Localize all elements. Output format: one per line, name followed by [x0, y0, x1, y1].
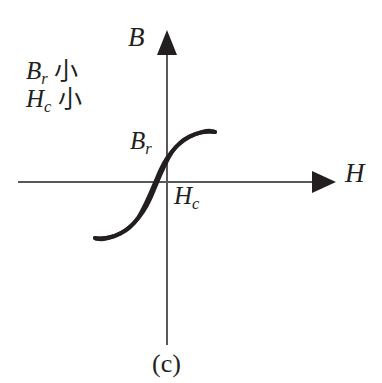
figure-caption: (c) — [152, 351, 181, 377]
arrow-up-icon — [157, 30, 177, 55]
axis-label-b-text: B — [128, 22, 145, 52]
curve-label-remanence-subscript: r — [145, 139, 151, 158]
annotation-remanence-small: Br 小 — [26, 58, 78, 83]
axis-label-h: H — [345, 160, 365, 187]
curve-label-coercivity: Hc — [174, 183, 199, 208]
axis-label-h-text: H — [345, 158, 365, 188]
annotation-remanence-symbol: B — [26, 57, 41, 84]
annotation-coercivity-qualifier: 小 — [58, 85, 82, 113]
annotation-coercivity-subscript: c — [44, 97, 51, 116]
annotation-coercivity-small: Hc 小 — [26, 86, 82, 111]
hysteresis-loop-figure: B H Br 小 Hc 小 Br Hc (c) — [0, 0, 382, 383]
curve-label-remanence-symbol: B — [130, 127, 145, 154]
curve-label-remanence: Br — [130, 128, 152, 153]
arrow-right-icon — [312, 171, 336, 193]
curve-label-coercivity-subscript: c — [192, 194, 199, 213]
axis-label-b: B — [128, 24, 145, 51]
annotation-remanence-qualifier: 小 — [54, 57, 78, 85]
curve-label-coercivity-symbol: H — [174, 182, 192, 209]
annotation-coercivity-symbol: H — [26, 85, 44, 112]
